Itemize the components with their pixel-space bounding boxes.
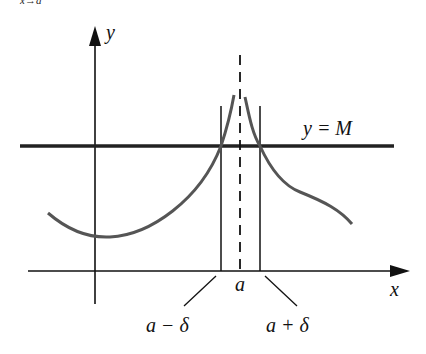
y-axis-label: y	[106, 22, 115, 42]
leader-a-plus-delta	[265, 276, 297, 306]
y-axis-arrow	[89, 26, 101, 46]
a-minus-delta-label: a − δ	[146, 315, 189, 335]
line-label: y = M	[303, 118, 352, 138]
curve-left	[48, 95, 234, 237]
x-axis-label: x	[390, 279, 399, 299]
a-plus-delta-label: a + δ	[266, 315, 309, 335]
diagram	[0, 0, 426, 354]
a-label: a	[235, 274, 245, 294]
leader-a-minus-delta	[184, 276, 216, 306]
x-axis-arrow	[390, 265, 410, 277]
